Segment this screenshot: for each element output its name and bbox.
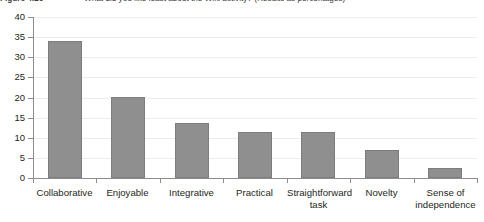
- y-axis-line: [33, 17, 34, 179]
- bar: [428, 168, 462, 178]
- x-axis-tick: [350, 178, 351, 183]
- bar: [175, 123, 209, 178]
- y-axis-tick-label: 10: [0, 133, 25, 143]
- bar: [238, 132, 272, 178]
- gridline: [33, 98, 477, 99]
- figure-container: Figure 4.16What did you like least about…: [0, 0, 484, 222]
- category-label-line: Sense of: [414, 187, 477, 199]
- x-axis-tick: [287, 178, 288, 183]
- y-axis-tick-label: 40: [0, 12, 25, 22]
- category-label-line: Collaborative: [33, 187, 96, 199]
- y-axis-tick-label: 5: [0, 153, 25, 163]
- x-axis-category-label: Enjoyable: [96, 187, 159, 199]
- bar: [301, 132, 335, 178]
- category-label-line: Practical: [223, 187, 286, 199]
- gridline: [33, 77, 477, 78]
- x-axis-tick: [223, 178, 224, 183]
- x-axis-category-label: Collaborative: [33, 187, 96, 199]
- x-axis-line: [33, 178, 477, 179]
- x-axis-category-label: Practical: [223, 187, 286, 199]
- gridline: [33, 118, 477, 119]
- category-label-line: task: [287, 199, 350, 211]
- category-label-line: Enjoyable: [96, 187, 159, 199]
- x-axis-tick: [96, 178, 97, 183]
- gridline: [33, 17, 477, 18]
- figure-number: Figure 4.16: [0, 0, 84, 5]
- category-label-line: Straightforward: [287, 187, 350, 199]
- x-axis-tick: [160, 178, 161, 183]
- category-label-line: Novelty: [350, 187, 413, 199]
- gridline: [33, 37, 477, 38]
- y-axis-tick-label: 35: [0, 32, 25, 42]
- figure-caption: Figure 4.16What did you like least about…: [0, 0, 484, 5]
- x-axis-category-label: Integrative: [160, 187, 223, 199]
- category-label-line: independence: [414, 199, 477, 211]
- bar: [365, 150, 399, 178]
- y-axis-tick-label: 0: [0, 173, 25, 183]
- y-axis-tick-label: 15: [0, 113, 25, 123]
- y-axis-tick-label: 20: [0, 93, 25, 103]
- category-label-line: Integrative: [160, 187, 223, 199]
- gridline: [33, 57, 477, 58]
- bar: [48, 41, 82, 178]
- bar: [111, 97, 145, 178]
- x-axis-category-label: Novelty: [350, 187, 413, 199]
- x-axis-category-label: Sense ofindependence: [414, 187, 477, 210]
- figure-caption-text: What did you like least about the Wiki a…: [84, 0, 345, 5]
- x-axis-category-label: Straightforwardtask: [287, 187, 350, 210]
- x-axis-tick: [477, 178, 478, 183]
- y-axis-tick-label: 30: [0, 52, 25, 62]
- y-axis-tick-label: 25: [0, 72, 25, 82]
- x-axis-tick: [414, 178, 415, 183]
- x-axis-tick: [33, 178, 34, 183]
